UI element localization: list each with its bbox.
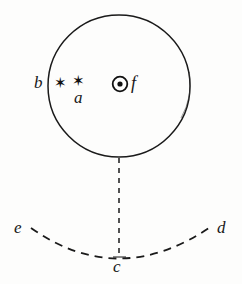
label-e: e xyxy=(14,219,22,236)
figure-canvas: ✶ ✶ b a f e c d xyxy=(0,0,242,284)
star-mark-1: ✶ xyxy=(54,76,67,91)
star-mark-2: ✶ xyxy=(72,74,85,89)
label-b: b xyxy=(34,74,43,91)
label-d: d xyxy=(217,219,226,236)
label-c: c xyxy=(113,258,121,275)
label-f: f xyxy=(131,74,136,92)
horizon-arc xyxy=(31,226,212,259)
figure-drawing xyxy=(0,0,242,284)
label-a: a xyxy=(74,89,83,106)
circled-dot-icon xyxy=(113,77,128,92)
